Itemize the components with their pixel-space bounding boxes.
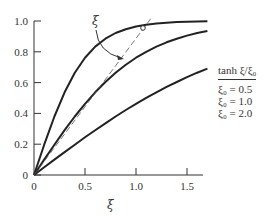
y-tick-label: 0.4 [14, 107, 28, 119]
annotation-arrow [96, 30, 121, 58]
curves [34, 21, 207, 175]
x-axis-label: ξ [107, 198, 115, 212]
y-tick-label: 0.2 [14, 138, 28, 150]
y-ticks: 00.20.40.60.81.0 [14, 15, 41, 181]
curve-2.0 [34, 69, 207, 175]
y-tick-label: 1.0 [14, 15, 28, 27]
y-tick-label: 0.8 [14, 46, 28, 58]
x-tick-label: 1.0 [129, 180, 143, 192]
legend-entry: ξ₀ = 1.0 [218, 95, 256, 107]
x-tick-label: 1.5 [180, 180, 194, 192]
legend-entry: ξ₀ = 2.0 [218, 107, 256, 119]
y-tick-label: 0 [23, 169, 29, 181]
y-tick-label: 0.6 [14, 77, 28, 89]
legend-title: tanh ξ/ξ₀ [218, 64, 256, 80]
legend: tanh ξ/ξ₀ ξ₀ = 0.5 ξ₀ = 1.0 ξ₀ = 2.0 [218, 64, 256, 119]
axes [34, 21, 203, 175]
x-tick-label: 0 [31, 180, 37, 192]
annotation-label: ξ [92, 14, 100, 28]
x-tick-label: 0.5 [78, 180, 92, 192]
intersection-marker [141, 26, 146, 31]
x-ticks: 00.51.01.5 [31, 168, 194, 192]
legend-entry: ξ₀ = 0.5 [218, 83, 256, 95]
curve-0.5 [34, 21, 207, 175]
